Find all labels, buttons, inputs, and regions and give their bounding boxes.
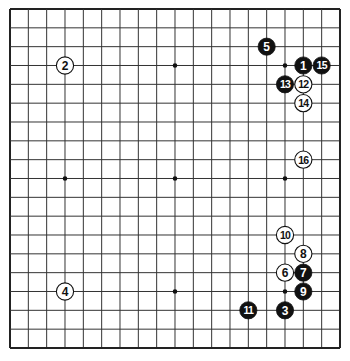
move-number-label: 4 bbox=[62, 285, 69, 299]
black-stone-15: 15 bbox=[313, 57, 330, 74]
white-stone-2: 2 bbox=[56, 57, 73, 74]
star-point bbox=[173, 176, 178, 181]
move-number-label: 15 bbox=[317, 59, 328, 71]
black-stone-11: 11 bbox=[240, 302, 257, 319]
move-number-label: 1 bbox=[300, 59, 307, 73]
move-number-label: 9 bbox=[300, 285, 307, 299]
move-number-label: 3 bbox=[282, 304, 289, 318]
move-number-label: 13 bbox=[280, 78, 291, 90]
move-number-label: 8 bbox=[300, 247, 307, 261]
move-number-label: 10 bbox=[280, 229, 291, 241]
star-point bbox=[173, 63, 178, 68]
star-point bbox=[283, 289, 288, 294]
black-stone-13: 13 bbox=[276, 76, 293, 93]
white-stone-16: 16 bbox=[295, 151, 312, 168]
move-number-label: 7 bbox=[300, 266, 307, 280]
move-number-label: 16 bbox=[298, 154, 309, 166]
white-stone-10: 10 bbox=[276, 226, 293, 243]
white-stone-8: 8 bbox=[295, 245, 312, 262]
star-point bbox=[283, 63, 288, 68]
black-stone-5: 5 bbox=[258, 38, 275, 55]
black-stone-7: 7 bbox=[295, 264, 312, 281]
black-stone-1: 1 bbox=[295, 57, 312, 74]
white-stone-14: 14 bbox=[295, 95, 312, 112]
move-number-label: 14 bbox=[298, 97, 309, 109]
move-number-label: 11 bbox=[244, 304, 254, 316]
go-board: 12345678910111213141516 bbox=[0, 0, 350, 361]
star-point bbox=[173, 289, 178, 294]
black-stone-3: 3 bbox=[276, 302, 293, 319]
star-point bbox=[283, 176, 288, 181]
star-point bbox=[63, 176, 68, 181]
white-stone-4: 4 bbox=[56, 283, 73, 300]
move-number-label: 5 bbox=[263, 40, 270, 54]
white-stone-6: 6 bbox=[276, 264, 293, 281]
white-stone-12: 12 bbox=[295, 76, 312, 93]
move-number-label: 6 bbox=[282, 266, 289, 280]
black-stone-9: 9 bbox=[295, 283, 312, 300]
move-number-label: 12 bbox=[298, 78, 309, 90]
move-number-label: 2 bbox=[62, 59, 69, 73]
